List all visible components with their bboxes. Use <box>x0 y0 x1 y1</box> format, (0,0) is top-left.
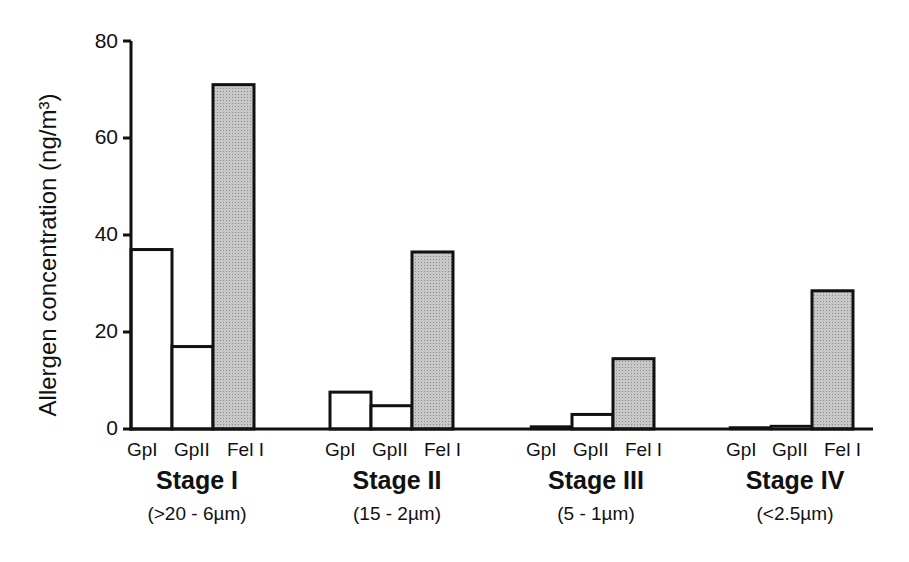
y-tick-label-0: 0 <box>78 416 118 440</box>
bar-gpi-stage1 <box>131 250 172 429</box>
bar-feli-stage4 <box>812 291 853 429</box>
stage-name-1: Stage I <box>156 466 238 495</box>
bar-label-stage2-gpii: GpII <box>372 439 408 461</box>
bar-label-stage4-feli: Fel I <box>824 439 861 461</box>
y-tick-label-60: 60 <box>78 125 118 149</box>
bar-label-stage2-gpi: GpI <box>325 439 356 461</box>
stage-range-1: (>20 - 6µm) <box>147 503 246 525</box>
bar-gpii-stage2 <box>371 406 412 429</box>
bar-label-stage3-feli: Fel I <box>625 439 662 461</box>
bar-feli-stage2 <box>412 252 453 429</box>
bar-label-stage3-gpi: GpI <box>526 439 557 461</box>
stage-range-2: (15 - 2µm) <box>353 503 441 525</box>
allergen-bar-chart: Allergen concentration (ng/m³) 0 20 40 6… <box>0 0 909 562</box>
bar-gpii-stage3 <box>572 414 613 429</box>
stage-name-2: Stage II <box>353 466 442 495</box>
bar-gpii-stage1 <box>172 347 213 429</box>
stage-range-4: (<2.5µm) <box>757 503 834 525</box>
stage-range-3: (5 - 1µm) <box>557 503 634 525</box>
bar-gpi-stage2 <box>330 392 371 429</box>
bar-label-stage3-gpii: GpII <box>573 439 609 461</box>
bar-feli-stage3 <box>613 359 654 429</box>
y-axis-label: Allergen concentration (ng/m³) <box>34 94 62 417</box>
y-tick-label-40: 40 <box>78 222 118 246</box>
y-tick-label-80: 80 <box>78 29 118 53</box>
bar-label-stage2-feli: Fel I <box>424 439 461 461</box>
stage-name-3: Stage III <box>548 466 644 495</box>
bar-label-stage1-gpi: GpI <box>127 439 158 461</box>
bar-label-stage4-gpi: GpI <box>726 439 757 461</box>
bar-label-stage1-feli: Fel I <box>227 439 264 461</box>
bar-label-stage4-gpii: GpII <box>772 439 808 461</box>
stage-name-4: Stage IV <box>746 466 845 495</box>
bar-feli-stage1 <box>213 85 254 429</box>
y-tick-label-20: 20 <box>78 319 118 343</box>
bar-label-stage1-gpii: GpII <box>174 439 210 461</box>
